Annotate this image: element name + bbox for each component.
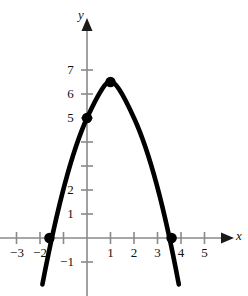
y-tick-label-6: 6 bbox=[64, 87, 77, 100]
point-y-intercept bbox=[82, 113, 92, 123]
x-tick-label-5: 5 bbox=[198, 246, 211, 259]
x-tick-label--3: −3 bbox=[8, 246, 26, 259]
point-x-intercept-left bbox=[44, 233, 54, 243]
y-tick-label-5: 5 bbox=[64, 111, 77, 124]
parabola-figure: −3 −2 1 2 3 4 5 7 6 5 2 1 −1 y x bbox=[0, 0, 248, 296]
x-axis-label: x bbox=[236, 229, 242, 242]
point-x-intercept-right bbox=[166, 233, 176, 243]
x-tick-label--2: −2 bbox=[31, 246, 49, 259]
y-tick-label-1: 1 bbox=[64, 207, 77, 220]
y-axis-label: y bbox=[78, 8, 84, 21]
x-tick-label-1: 1 bbox=[104, 246, 117, 259]
point-vertex bbox=[105, 77, 115, 87]
y-tick-label-2: 2 bbox=[64, 183, 77, 196]
x-axis-arrowhead bbox=[221, 233, 234, 244]
x-tick-label-3: 3 bbox=[151, 246, 164, 259]
x-tick-label-4: 4 bbox=[175, 246, 188, 259]
y-tick-label-7: 7 bbox=[64, 63, 77, 76]
x-tick-label-2: 2 bbox=[128, 246, 141, 259]
y-tick-label--1: −1 bbox=[57, 255, 77, 268]
